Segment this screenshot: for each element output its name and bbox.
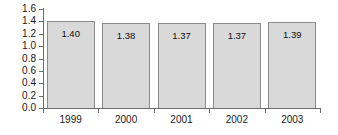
y-axis-tick-label: 0.0 (22, 102, 36, 113)
bar: 1.38 (102, 23, 150, 108)
bar: 1.40 (47, 21, 95, 108)
y-axis-tick-label: 0.8 (22, 53, 36, 64)
y-axis-tick-label: 1.2 (22, 28, 36, 39)
x-axis-tick-mark (43, 109, 44, 113)
x-axis-category-label: 2002 (209, 114, 264, 126)
bar-chart: 1.61.41.21.00.80.60.40.20.0 1.401.381.37… (0, 0, 338, 135)
y-axis-tick-label: 0.6 (22, 65, 36, 76)
x-axis-tick-mark (154, 109, 155, 113)
y-axis-tick-label: 1.4 (22, 15, 36, 26)
x-axis-category-label: 2003 (265, 114, 320, 126)
bar-value-label: 1.39 (269, 30, 315, 40)
x-axis-line (43, 108, 321, 109)
y-axis-tick-group: 1.61.41.21.00.80.60.40.20.0 (0, 9, 43, 108)
x-axis-category-label: 2000 (98, 114, 153, 126)
bar-value-label: 1.40 (48, 29, 94, 39)
x-axis-tick-mark (320, 109, 321, 113)
x-axis-category-label: 2001 (154, 114, 209, 126)
bar: 1.39 (268, 22, 316, 108)
y-axis-tick-label: 1.6 (22, 3, 36, 14)
bar: 1.37 (158, 23, 206, 108)
x-axis-tick-mark (98, 109, 99, 113)
bar-value-label: 1.37 (214, 31, 260, 41)
bar: 1.37 (213, 23, 261, 108)
x-axis-tick-mark (209, 109, 210, 113)
y-axis-tick-label: 1.0 (22, 40, 36, 51)
bar-value-label: 1.38 (103, 31, 149, 41)
y-axis-tick-label: 0.4 (22, 77, 36, 88)
bar-value-label: 1.37 (159, 31, 205, 41)
y-axis-tick-label: 0.2 (22, 90, 36, 101)
plot-area: 1.401.381.371.371.39 (43, 9, 320, 108)
x-axis-category-label: 1999 (43, 114, 98, 126)
x-axis-tick-mark (265, 109, 266, 113)
